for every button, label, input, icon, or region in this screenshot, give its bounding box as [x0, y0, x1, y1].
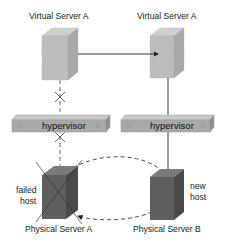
failed-host-label-line2: host: [20, 197, 36, 206]
failover-path-bottom: [78, 208, 158, 220]
hypervisor-right-label: hypervisor: [150, 121, 194, 131]
virtual-server-right-icon: [150, 28, 184, 78]
physical-server-b-icon: [150, 169, 184, 220]
virtual-server-left-icon: [42, 28, 78, 80]
new-host-label-line1: new: [190, 182, 206, 191]
new-host-label-line2: host: [190, 193, 206, 202]
physical-server-a-label: Physical Server A: [25, 225, 92, 234]
hypervisor-left-label: hypervisor: [42, 121, 86, 131]
failed-host-label-line1: failed: [16, 186, 37, 195]
virtual-server-a-right-label: Virtual Server A: [137, 12, 197, 21]
virtual-server-a-left-label: Virtual Server A: [29, 12, 89, 21]
physical-server-b-label: Physical Server B: [133, 225, 201, 234]
